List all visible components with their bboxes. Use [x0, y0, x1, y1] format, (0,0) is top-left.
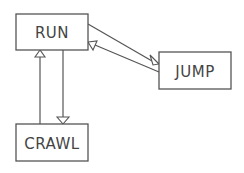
edge-run-to-crawl [57, 50, 69, 124]
node-jump: JUMP [159, 52, 231, 89]
node-crawl: CRAWL [16, 124, 88, 161]
arrowhead-icon [35, 50, 45, 57]
edge-crawl-to-run [35, 50, 45, 124]
edge-run-to-jump [88, 24, 159, 65]
arrowhead-icon [57, 117, 69, 124]
node-run: RUN [16, 14, 88, 50]
node-jump-label: JUMP [174, 63, 214, 81]
state-diagram: RUN JUMP CRAWL [0, 0, 244, 173]
edge-jump-to-run [88, 41, 159, 72]
node-run-label: RUN [35, 24, 69, 42]
node-crawl-label: CRAWL [24, 135, 80, 153]
arrowhead-icon [150, 55, 159, 65]
